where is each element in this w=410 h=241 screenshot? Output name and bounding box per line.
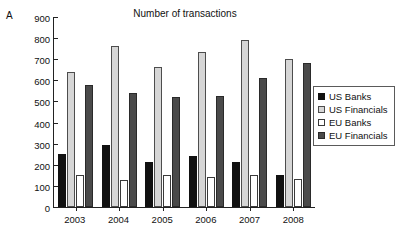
bar — [285, 59, 293, 207]
y-axis-tick-label: 100 — [24, 183, 54, 193]
panel-letter-label: A — [6, 10, 13, 22]
x-axis-tick-mark — [119, 207, 120, 211]
bar — [276, 175, 284, 207]
y-axis-tick-label: 600 — [24, 77, 54, 87]
bar — [303, 63, 311, 207]
bar — [58, 154, 66, 207]
bar — [294, 179, 302, 207]
bar-group — [228, 17, 272, 207]
bar — [102, 145, 110, 207]
bar — [154, 67, 162, 207]
legend-item: US Financials — [318, 103, 391, 116]
bar — [145, 162, 153, 207]
y-axis-tick-label: 500 — [24, 98, 54, 108]
y-axis-tick: 0 — [24, 198, 54, 216]
y-axis-tick-label: 300 — [24, 141, 54, 151]
y-axis-tick: 100 — [24, 177, 54, 195]
x-axis-labels: 200320042005200620072008 — [53, 214, 315, 225]
x-axis-label: 2006 — [184, 214, 228, 225]
legend-swatch-icon — [318, 119, 325, 126]
x-axis-label: 2003 — [53, 214, 97, 225]
bar — [232, 162, 240, 207]
plot-area: 9008007006005004003002001000 — [53, 17, 315, 208]
legend-label: EU Banks — [329, 117, 371, 128]
y-axis-tick-label: 800 — [24, 35, 54, 45]
x-axis-tick-mark — [206, 207, 207, 211]
bars-layer — [54, 17, 315, 207]
bar-group — [141, 17, 185, 207]
y-axis-tick: 700 — [24, 50, 54, 68]
x-axis-tick-mark — [250, 207, 251, 211]
bar — [120, 180, 128, 207]
y-axis-tick-mark — [54, 207, 58, 208]
x-axis-label: 2004 — [97, 214, 141, 225]
bar — [129, 93, 137, 207]
y-axis-tick-label: 700 — [24, 56, 54, 66]
legend-swatch-icon — [318, 132, 325, 139]
bar — [163, 175, 171, 207]
y-axis-tick-label: 400 — [24, 120, 54, 130]
bar — [198, 52, 206, 207]
y-axis-tick: 500 — [24, 92, 54, 110]
x-axis-tick-mark — [293, 207, 294, 211]
legend-label: EU Financials — [329, 130, 388, 141]
bar — [250, 175, 258, 207]
bar-group — [98, 17, 142, 207]
bar — [259, 78, 267, 207]
legend-swatch-icon — [318, 93, 325, 100]
bar — [216, 96, 224, 207]
x-axis-label: 2007 — [228, 214, 272, 225]
legend-label: US Financials — [329, 104, 388, 115]
y-axis-tick: 300 — [24, 135, 54, 153]
y-axis-tick: 200 — [24, 156, 54, 174]
bar — [207, 177, 215, 207]
x-axis-tick-mark — [76, 207, 77, 211]
bar — [172, 97, 180, 207]
transactions-bar-chart: A Number of transactions 900800700600500… — [0, 0, 410, 241]
y-axis-tick-label: 0 — [24, 204, 54, 214]
bar — [189, 156, 197, 207]
y-axis-tick: 600 — [24, 71, 54, 89]
legend-item: EU Banks — [318, 116, 391, 129]
legend-swatch-icon — [318, 106, 325, 113]
bar-group — [185, 17, 229, 207]
legend-label: US Banks — [329, 91, 371, 102]
chart-legend: US BanksUS FinancialsEU BanksEU Financia… — [313, 86, 395, 146]
bar-group — [54, 17, 98, 207]
x-axis-label: 2008 — [271, 214, 315, 225]
y-axis-tick-label: 200 — [24, 162, 54, 172]
y-axis-tick: 800 — [24, 29, 54, 47]
y-axis-tick: 900 — [24, 8, 54, 26]
x-axis-label: 2005 — [140, 214, 184, 225]
bar — [76, 175, 84, 207]
bar — [85, 85, 93, 207]
legend-item: EU Financials — [318, 129, 391, 142]
bar — [241, 40, 249, 207]
y-axis-tick-label: 900 — [24, 14, 54, 24]
bar — [67, 72, 75, 207]
bar — [111, 46, 119, 208]
y-axis-tick: 400 — [24, 114, 54, 132]
bar-group — [272, 17, 316, 207]
legend-item: US Banks — [318, 90, 391, 103]
x-axis-tick-mark — [163, 207, 164, 211]
